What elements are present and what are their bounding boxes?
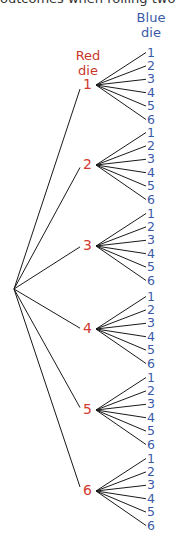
root-branch-3 [14,247,80,289]
red-die-outcome-1: 1 [83,78,92,91]
blue-die-outcome-2-2: 2 [147,139,155,152]
blue-branch-4-5 [96,329,146,350]
root-branch-4 [14,289,80,328]
blue-die-outcome-5-2: 2 [147,384,155,397]
blue-die-outcome-6-6: 6 [147,519,155,532]
root-branch-2 [14,167,80,289]
red-die-outcome-3: 3 [83,239,92,252]
blue-branch-3-5 [96,246,146,267]
blue-branch-2-4 [96,165,146,173]
blue-branch-2-5 [96,165,146,186]
blue-die-outcome-4-6: 6 [147,357,155,370]
blue-die-outcome-2-6: 6 [147,193,155,206]
blue-die-outcome-6-3: 3 [147,478,155,491]
blue-die-outcome-1-4: 4 [147,86,155,99]
root-branch-5 [14,289,80,408]
blue-branch-4-4 [96,329,146,337]
blue-die-outcome-6-1: 1 [147,452,155,465]
blue-die-outcome-2-1: 1 [147,126,155,139]
blue-branch-3-4 [96,246,146,254]
blue-die-outcome-1-1: 1 [147,46,155,59]
blue-branch-3-6 [96,246,146,281]
blue-die-outcome-6-2: 2 [147,465,155,478]
blue-die-outcome-3-2: 2 [147,220,155,233]
blue-die-outcome-5-4: 4 [147,411,155,424]
red-die-outcome-6: 6 [83,484,92,497]
blue-die-outcome-4-4: 4 [147,330,155,343]
blue-die-outcome-6-5: 5 [147,505,155,518]
blue-branch-1-5 [96,85,146,106]
blue-die-outcome-3-6: 6 [147,274,155,287]
blue-die-outcome-4-2: 2 [147,303,155,316]
blue-die-outcome-4-5: 5 [147,343,155,356]
blue-die-outcome-1-2: 2 [147,59,155,72]
blue-branch-1-6 [96,85,146,120]
blue-die-outcome-5-1: 1 [147,371,155,384]
blue-die-outcome-3-3: 3 [147,233,155,246]
root-branch-1 [14,89,80,289]
blue-die-outcome-2-4: 4 [147,166,155,179]
blue-die-outcome-2-5: 5 [147,179,155,192]
blue-branch-6-4 [96,491,146,499]
blue-die-outcome-1-6: 6 [147,113,155,126]
blue-die-outcome-6-4: 4 [147,492,155,505]
blue-branch-5-6 [96,410,146,445]
blue-branch-6-6 [96,491,146,526]
blue-die-outcome-2-3: 3 [147,152,155,165]
red-die-outcome-4: 4 [83,322,92,335]
blue-branch-1-4 [96,85,146,93]
blue-die-outcome-4-1: 1 [147,290,155,303]
blue-branch-5-4 [96,410,146,418]
blue-die-outcome-3-5: 5 [147,260,155,273]
blue-die-outcome-3-4: 4 [147,247,155,260]
blue-die-outcome-5-3: 3 [147,397,155,410]
red-die-outcome-2: 2 [83,158,92,171]
blue-branch-5-5 [96,410,146,431]
blue-branch-4-6 [96,329,146,364]
root-branch-6 [14,289,80,487]
blue-die-outcome-5-5: 5 [147,424,155,437]
blue-die-outcome-3-1: 1 [147,207,155,220]
red-die-outcome-5: 5 [83,403,92,416]
blue-die-outcome-1-5: 5 [147,99,155,112]
blue-die-outcome-4-3: 3 [147,316,155,329]
blue-die-outcome-1-3: 3 [147,72,155,85]
blue-die-outcome-5-6: 6 [147,438,155,451]
blue-branch-6-5 [96,491,146,512]
blue-branch-2-6 [96,165,146,200]
